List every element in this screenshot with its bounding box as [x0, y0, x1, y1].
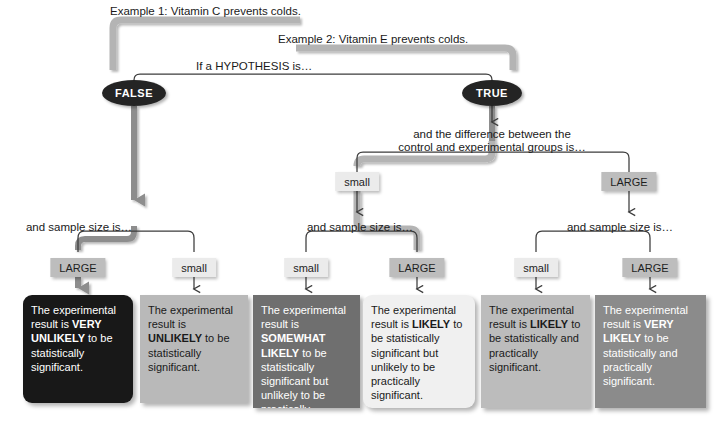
sample-tag-5-small[interactable]: small	[514, 258, 558, 277]
outcome-box-very-likely-both: The experimental result is VERY LIKELY t…	[595, 295, 706, 408]
root-question-label: If a HYPOTHESIS is…	[196, 60, 312, 73]
example-1-label: Example 1: Vitamin C prevents colds.	[110, 5, 301, 18]
outcome-box-likely-not-practical: The experimental result is LIKELY to be …	[363, 295, 475, 408]
outcome-box-very-unlikely: The experimental result is VERY UNLIKELY…	[23, 295, 133, 403]
sample-tag-3-small[interactable]: small	[284, 258, 328, 277]
sample-tag-1-large[interactable]: LARGE	[50, 258, 105, 277]
outcome-box-likely-both: The experimental result is LIKELY to be …	[481, 295, 590, 408]
decision-node-true[interactable]: TRUE	[462, 80, 522, 106]
outcome-box-somewhat-likely: The experimental result is SOMEWHAT LIKE…	[253, 295, 360, 408]
flowchart-diagram: Example 1: Vitamin C prevents colds. Exa…	[0, 0, 719, 428]
example-2-label: Example 2: Vitamin E prevents colds.	[278, 33, 468, 46]
sample-tag-6-large[interactable]: LARGE	[622, 258, 677, 277]
decision-node-false[interactable]: FALSE	[102, 80, 166, 106]
sample-tag-2-small[interactable]: small	[172, 258, 216, 277]
sample-size-question-false: and sample size is…	[26, 221, 132, 234]
outcome-box-unlikely: The experimental result is UNLIKELY to b…	[140, 295, 248, 403]
difference-tag-large[interactable]: LARGE	[601, 172, 656, 191]
sample-tag-4-large[interactable]: LARGE	[389, 258, 444, 277]
difference-question-line2: control and experimental groups is…	[398, 141, 585, 154]
difference-tag-small[interactable]: small	[335, 172, 379, 191]
difference-question-line1: and the difference between the	[413, 128, 571, 141]
sample-size-question-true-large: and sample size is…	[567, 221, 673, 234]
sample-size-question-true-small: and sample size is…	[307, 221, 413, 234]
